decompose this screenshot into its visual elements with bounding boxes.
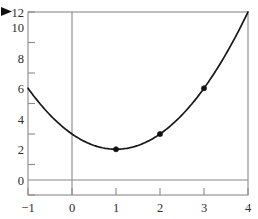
y-tick-label: 0 [18,174,24,188]
y-tick-label: 6 [18,82,24,96]
y-tick-label: 10 [12,21,25,35]
data-point [201,86,206,91]
pointer-arrow-icon [1,7,12,16]
y-tick-label: 4 [18,113,25,127]
x-axis-tick-labels: −1 0 1 2 3 4 [21,201,252,215]
parabola-chart: 0 2 4 6 8 10 12 −1 0 1 2 3 4 [0,0,258,219]
y-tick-label: 12 [12,6,25,20]
x-tick-label: 3 [201,201,207,215]
y-axis-tick-labels: 0 2 4 6 8 10 12 [12,6,25,188]
data-point [157,131,162,136]
x-tick-label: 0 [69,201,75,215]
x-tick-label: 4 [245,201,252,215]
plot-background [28,12,248,195]
x-tick-label: 2 [157,201,163,215]
y-tick-label: 2 [18,143,24,157]
chart-container: 0 2 4 6 8 10 12 −1 0 1 2 3 4 [0,0,258,219]
x-tick-label: −1 [21,201,34,215]
data-point [113,147,118,152]
y-tick-label: 8 [18,52,24,66]
x-tick-label: 1 [113,201,119,215]
